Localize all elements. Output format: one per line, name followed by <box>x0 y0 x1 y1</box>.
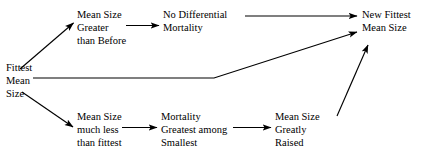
node-new-fittest-mean-size: New Fittest Mean Size <box>362 9 411 35</box>
node-line: Mean Size <box>77 111 122 124</box>
node-no-differential-mortality: No Differential Mortality <box>163 9 227 35</box>
node-line: Greatest among <box>161 124 227 137</box>
node-line: Mortality <box>161 111 227 124</box>
node-line: Greatly <box>275 124 320 137</box>
node-mean-size-much-less: Mean Size much less than fittest <box>77 111 122 149</box>
node-line: New Fittest <box>362 9 411 22</box>
node-line: than Before <box>77 35 126 48</box>
node-line: Size <box>6 88 32 101</box>
node-mortality-greatest-among-smallest: Mortality Greatest among Smallest <box>161 111 227 149</box>
edge-raised-to-new <box>337 45 368 116</box>
node-fittest-mean-size: Fittest Mean Size <box>6 62 32 100</box>
node-line: much less <box>77 124 122 137</box>
node-line: Mean <box>6 75 32 88</box>
flowchart-diagram: Fittest Mean Size Mean Size Greater than… <box>0 0 431 153</box>
node-line: Raised <box>275 137 320 150</box>
node-line: Mean Size <box>275 111 320 124</box>
node-line: Mean Size <box>77 9 126 22</box>
node-line: than fittest <box>77 137 122 150</box>
node-line: Greater <box>77 22 126 35</box>
node-line: Smallest <box>161 137 227 150</box>
node-line: No Differential <box>163 9 227 22</box>
node-mean-size-greater: Mean Size Greater than Before <box>77 9 126 47</box>
node-mean-size-greatly-raised: Mean Size Greatly Raised <box>275 111 320 149</box>
node-line: Mortality <box>163 22 227 35</box>
node-line: Fittest <box>6 62 32 75</box>
node-line: Mean Size <box>362 22 411 35</box>
